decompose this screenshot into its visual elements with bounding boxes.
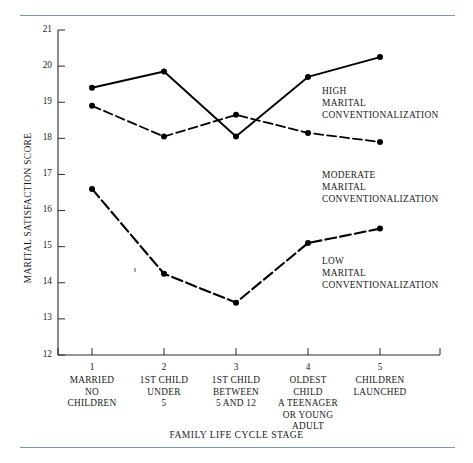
data-point-1-1 [161, 134, 167, 140]
series-annotation-line: MARITAL [322, 98, 439, 110]
series-annotation-2: LOWMARITALCONVENTIONALIZATION [322, 256, 439, 291]
category-label-line: A TEENAGER [265, 398, 351, 410]
line-chart: MARITAL SATISFACTION SCORE FAMILY LIFE C… [0, 18, 473, 446]
y-axis-tick-label: 14 [28, 276, 52, 286]
category-label-line: ADULT [265, 421, 351, 433]
category-label-line: LAUNCHED [337, 387, 423, 399]
y-axis-tick-label: 17 [28, 168, 52, 178]
top-divider-rule [20, 15, 455, 16]
series-annotation-line: CONVENTIONALIZATION [322, 194, 439, 206]
y-axis-tick-label: 15 [28, 240, 52, 250]
bottom-divider-rule [20, 447, 455, 448]
x-axis-tick-number: 1 [62, 362, 122, 372]
data-point-0-4 [377, 54, 383, 60]
series-annotation-line: HIGH [322, 86, 439, 98]
series-annotation-line: LOW [322, 256, 439, 268]
category-label-line: CHILDREN [337, 375, 423, 387]
data-point-0-3 [305, 74, 311, 80]
series-annotation-line: MODERATE [322, 170, 439, 182]
x-axis-category-label: CHILDRENLAUNCHED [337, 375, 423, 398]
data-point-1-4 [377, 139, 383, 145]
data-point-2-2 [233, 300, 239, 306]
x-axis-tick-number: 3 [206, 362, 266, 372]
figure-page: MARITAL SATISFACTION SCORE FAMILY LIFE C… [0, 0, 473, 463]
series-annotation-1: MODERATEMARITALCONVENTIONALIZATION [322, 170, 439, 205]
x-axis-tick-number: 5 [350, 362, 410, 372]
category-label-line: OR YOUNG [265, 410, 351, 422]
y-axis-tick-label: 18 [28, 132, 52, 142]
data-point-2-4 [377, 226, 383, 232]
series-annotation-line: MARITAL [322, 268, 439, 280]
series-annotation-0: HIGHMARITALCONVENTIONALIZATION [322, 86, 439, 121]
y-axis-tick-label: 21 [28, 24, 52, 34]
y-axis-tick-label: 20 [28, 60, 52, 70]
y-axis-tick-label: 19 [28, 96, 52, 106]
data-point-2-3 [305, 240, 311, 246]
y-axis-tick-label: 16 [28, 204, 52, 214]
data-point-1-3 [305, 130, 311, 136]
data-point-0-2 [233, 134, 239, 140]
data-point-2-0 [89, 186, 95, 192]
x-axis-title: FAMILY LIFE CYCLE STAGE [0, 429, 473, 440]
y-axis-tick-label: 12 [28, 349, 52, 359]
series-annotation-line: CONVENTIONALIZATION [322, 110, 439, 122]
x-axis-tick-number: 4 [278, 362, 338, 372]
data-point-2-1 [161, 271, 167, 277]
data-point-1-2 [233, 112, 239, 118]
data-point-0-1 [161, 69, 167, 75]
data-point-0-0 [89, 85, 95, 91]
series-annotation-line: MARITAL [322, 182, 439, 194]
x-axis-tick-number: 2 [134, 362, 194, 372]
print-speck [134, 268, 136, 272]
y-axis-tick-label: 13 [28, 312, 52, 322]
series-annotation-line: CONVENTIONALIZATION [322, 280, 439, 292]
data-point-1-0 [89, 103, 95, 109]
